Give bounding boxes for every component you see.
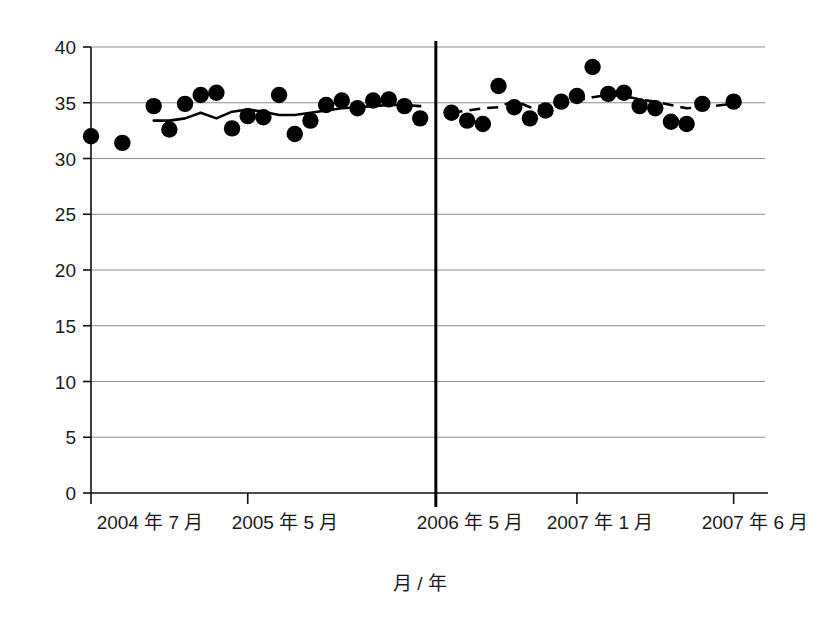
y-tick-label-25: 25 <box>55 204 76 225</box>
chart-container: 0510152025303540 2004 年 7 月2005 年 5 月200… <box>0 0 840 626</box>
data-point <box>302 112 318 128</box>
observed-points-period-2 <box>443 59 742 132</box>
data-point <box>146 98 162 114</box>
data-point <box>616 85 632 101</box>
data-point <box>349 100 365 116</box>
x-axis-tickmarks <box>91 493 734 504</box>
data-point <box>600 86 616 102</box>
data-point <box>193 87 209 103</box>
x-axis-title: 月 / 年 <box>393 573 447 594</box>
x-axis-tick-labels: 2004 年 7 月2005 年 5 月2006 年 5 月2007 年 1 月… <box>97 512 809 533</box>
trend-line-period-2 <box>452 95 734 113</box>
data-point <box>334 92 350 108</box>
data-point <box>208 85 224 101</box>
data-point <box>177 96 193 112</box>
data-point <box>365 92 381 108</box>
y-tick-label-35: 35 <box>55 93 76 114</box>
data-point <box>569 88 585 104</box>
data-point <box>287 126 303 142</box>
data-point <box>318 97 334 113</box>
data-point <box>459 112 475 128</box>
data-point <box>694 96 710 112</box>
scatter-line-chart: 0510152025303540 2004 年 7 月2005 年 5 月200… <box>0 0 840 626</box>
x-tick-label-3: 2007 年 1 月 <box>547 512 654 533</box>
data-point <box>725 93 741 109</box>
data-point <box>506 99 522 115</box>
data-point <box>443 105 459 121</box>
y-tick-label-20: 20 <box>55 260 76 281</box>
data-point <box>522 110 538 126</box>
y-axis-tickmarks <box>83 47 91 493</box>
y-tick-label-30: 30 <box>55 149 76 170</box>
data-points <box>83 59 742 151</box>
data-point <box>553 93 569 109</box>
data-point <box>678 116 694 132</box>
data-point <box>475 116 491 132</box>
data-point <box>412 110 428 126</box>
data-point <box>396 98 412 114</box>
x-tick-label-2: 2006 年 5 月 <box>417 512 524 533</box>
data-point <box>537 102 553 118</box>
x-tick-label-0: 2004 年 7 月 <box>97 512 204 533</box>
x-tick-label-4: 2007 年 6 月 <box>702 512 809 533</box>
data-point <box>271 87 287 103</box>
y-tick-label-40: 40 <box>55 37 76 58</box>
data-point <box>255 109 271 125</box>
data-point <box>161 121 177 137</box>
y-tick-label-5: 5 <box>65 427 76 448</box>
observed-points-period-1 <box>83 85 429 152</box>
data-point <box>584 59 600 75</box>
data-point <box>663 114 679 130</box>
y-tick-label-15: 15 <box>55 316 76 337</box>
y-tick-label-0: 0 <box>65 483 76 504</box>
data-point <box>224 120 240 136</box>
trend-line-period-1 <box>154 105 420 121</box>
data-point <box>114 135 130 151</box>
data-point <box>240 108 256 124</box>
data-point <box>83 128 99 144</box>
y-tick-label-10: 10 <box>55 372 76 393</box>
data-point <box>381 91 397 107</box>
data-point <box>490 78 506 94</box>
data-point <box>631 98 647 114</box>
data-point <box>647 100 663 116</box>
x-tick-label-1: 2005 年 5 月 <box>232 512 339 533</box>
y-axis-tick-labels: 0510152025303540 <box>55 37 76 504</box>
